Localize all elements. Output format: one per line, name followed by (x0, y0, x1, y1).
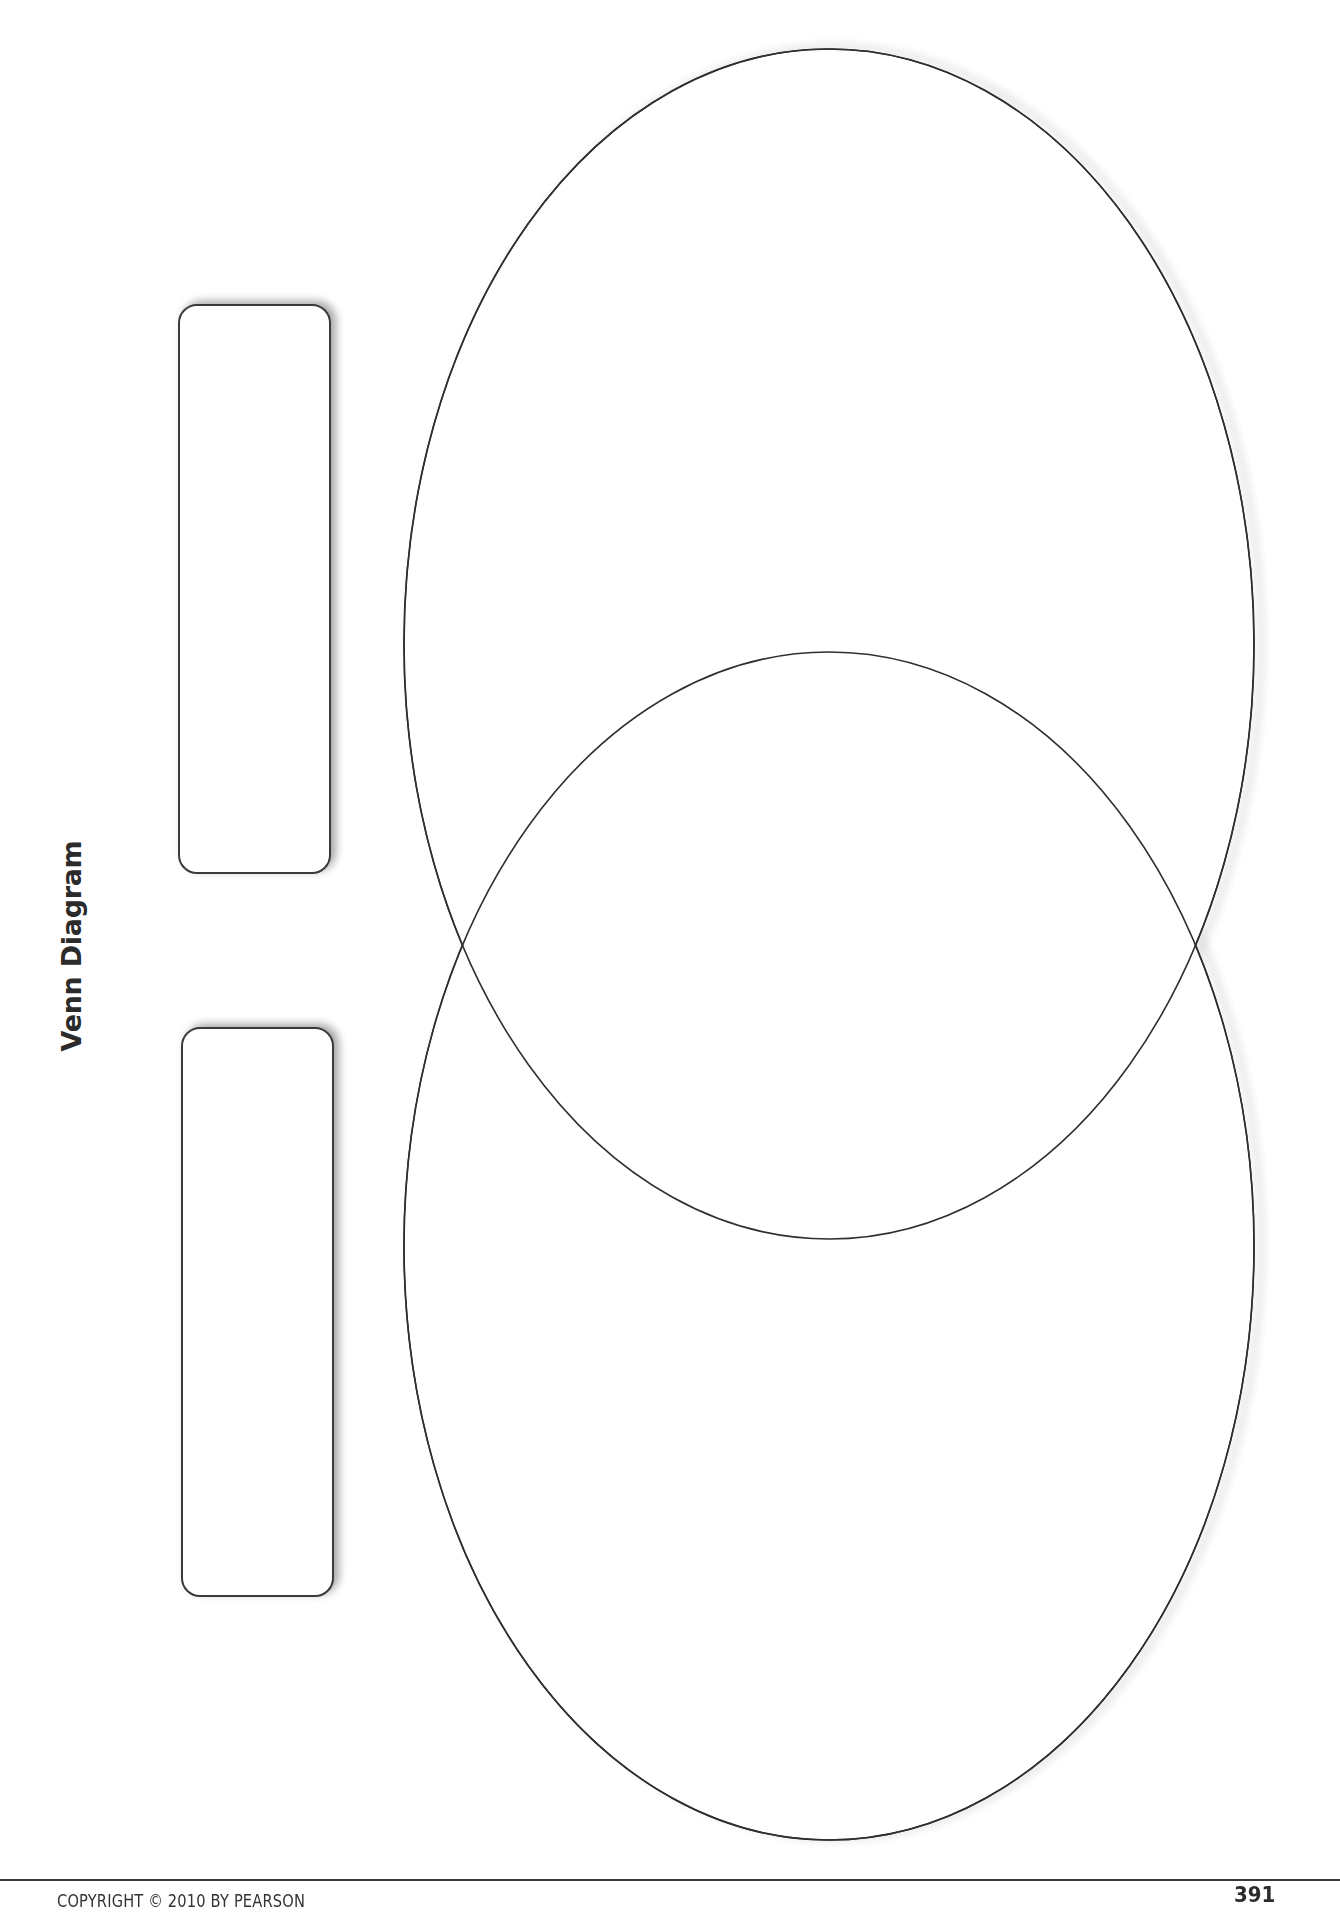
footer-divider (0, 1879, 1340, 1881)
set-b-ellipse-shadow (404, 652, 1254, 1840)
set-b-ellipse[interactable] (404, 652, 1254, 1840)
venn-diagram (0, 0, 1340, 1912)
set-a-label-box[interactable] (178, 304, 331, 874)
page-title: Venn Diagram (56, 841, 87, 1052)
set-a-ellipse-shadow (404, 49, 1254, 1239)
page-number: 391 (1234, 1882, 1275, 1907)
ellipse-shadow-layer (404, 49, 1254, 1840)
copyright-notice: COPYRIGHT © 2010 BY PEARSON (57, 1891, 305, 1911)
set-b-label-box[interactable] (181, 1027, 334, 1597)
set-a-ellipse[interactable] (404, 49, 1254, 1239)
ellipse-fill-layer (405, 50, 1253, 1839)
